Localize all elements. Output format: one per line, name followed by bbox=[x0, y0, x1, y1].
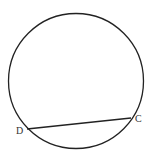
chord-dc bbox=[27, 118, 131, 129]
diagram-canvas: D C bbox=[0, 0, 153, 158]
point-label-c: C bbox=[135, 113, 142, 124]
point-label-d: D bbox=[16, 125, 23, 136]
